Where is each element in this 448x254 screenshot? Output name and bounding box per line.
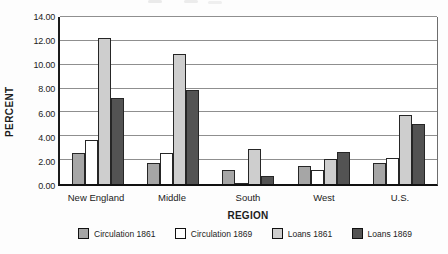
cropped-title-remnant-artifact xyxy=(148,0,162,3)
legend: Circulation 1861Circulation 1869Loans 18… xyxy=(78,228,412,239)
circulation-1861-bar xyxy=(298,166,311,184)
y-tick-label: 4.00 xyxy=(38,133,55,143)
y-tick-label: 2.00 xyxy=(38,157,55,167)
circulation-1861-bar xyxy=(222,170,235,184)
x-category-label-u-s: U.S. xyxy=(362,192,438,203)
bar-group-south xyxy=(211,17,286,184)
legend-swatch-icon xyxy=(175,228,186,239)
circulation-1869-bar xyxy=(160,153,173,184)
circulation-1869-bar xyxy=(386,158,399,184)
y-tick-label: 14.00 xyxy=(33,12,55,22)
loans-1869-bar xyxy=(186,90,199,184)
loans-1869-bar xyxy=(412,124,425,184)
x-category-label-south: South xyxy=(210,192,286,203)
circulation-1861-bar xyxy=(373,163,386,184)
legend-item-loans-1861: Loans 1861 xyxy=(272,228,332,239)
circulation-1861-bar xyxy=(147,163,160,184)
circulation-1869-bar xyxy=(85,140,98,184)
x-category-label-middle: Middle xyxy=(134,192,210,203)
y-tick-label: 10.00 xyxy=(33,60,55,70)
y-tick-label: 0.00 xyxy=(38,181,55,191)
loans-1861-bar xyxy=(399,115,412,184)
x-axis-title: REGION xyxy=(58,210,438,221)
bar-group-u-s xyxy=(362,17,437,184)
legend-label: Loans 1861 xyxy=(288,229,332,239)
y-tick-label: 6.00 xyxy=(38,109,55,119)
bar-chart: PERCENT 14.0012.0010.008.006.004.002.000… xyxy=(0,0,448,254)
loans-1869-bar xyxy=(337,152,350,184)
circulation-1869-bar xyxy=(235,183,248,184)
loans-1869-bar xyxy=(261,176,274,184)
legend-label: Loans 1869 xyxy=(368,229,412,239)
loans-1861-bar xyxy=(173,54,186,184)
y-tick-label: 8.00 xyxy=(38,84,55,94)
bar-group-new-england xyxy=(60,17,135,184)
y-axis-tick-labels: 14.0012.0010.008.006.004.002.000.00 xyxy=(10,17,55,186)
circulation-1861-bar xyxy=(72,153,85,184)
loans-1861-bar xyxy=(248,149,261,184)
loans-1869-bar xyxy=(111,98,124,184)
y-tick-label: 12.00 xyxy=(33,36,55,46)
x-category-label-west: West xyxy=(286,192,362,203)
legend-swatch-icon xyxy=(78,228,89,239)
circulation-1869-bar xyxy=(311,170,324,184)
bar-group-middle xyxy=(135,17,210,184)
bar-group-west xyxy=(286,17,361,184)
x-axis-category-labels: New EnglandMiddleSouthWestU.S. xyxy=(58,192,438,203)
x-category-label-new-england: New England xyxy=(58,192,134,203)
legend-swatch-icon xyxy=(272,228,283,239)
loans-1861-bar xyxy=(98,38,111,184)
legend-item-loans-1869: Loans 1869 xyxy=(352,228,412,239)
loans-1861-bar xyxy=(324,159,337,184)
legend-item-circulation-1861: Circulation 1861 xyxy=(78,228,155,239)
legend-label: Circulation 1861 xyxy=(94,229,155,239)
plot-area xyxy=(58,17,438,186)
legend-swatch-icon xyxy=(352,228,363,239)
legend-label: Circulation 1869 xyxy=(191,229,252,239)
legend-item-circulation-1869: Circulation 1869 xyxy=(175,228,252,239)
